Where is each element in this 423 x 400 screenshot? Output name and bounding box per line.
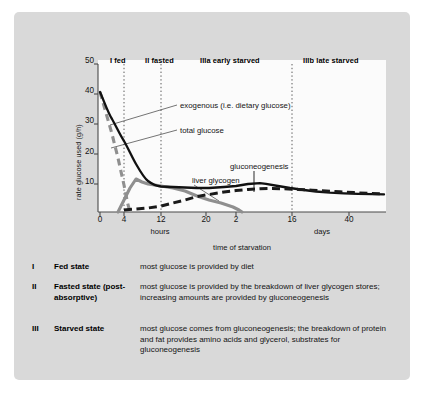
legend-description-iii: most glucose comes from gluconeogenesis;…: [140, 324, 398, 356]
series-total-glucose: [100, 92, 384, 194]
legend-numeral-i: I: [32, 262, 48, 271]
legend-state-iii: Starved state: [54, 324, 136, 335]
legend-numeral-iii: III: [32, 324, 48, 333]
legend-description-ii: most glucose is provided by the breakdow…: [140, 282, 398, 303]
legend-numeral-ii: II: [32, 282, 48, 291]
data-series-curves: [100, 92, 384, 212]
chart-vector-layer: [14, 12, 410, 260]
series-liver-glycogen: [118, 179, 242, 212]
legend-description-i: most glucose is provided by diet: [140, 262, 398, 273]
chart-area: I fed II fasted IIIa early starved IIIb …: [14, 12, 410, 260]
legend-state-ii: Fasted state (post-absorptive): [54, 282, 136, 303]
legend-state-i: Fed state: [54, 262, 136, 273]
figure-panel: I fed II fasted IIIa early starved IIIb …: [14, 12, 410, 380]
